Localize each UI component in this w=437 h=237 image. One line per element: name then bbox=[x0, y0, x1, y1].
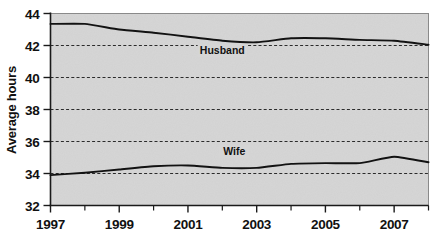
y-tick-label-32: 32 bbox=[25, 199, 39, 214]
x-tick-label-2003: 2003 bbox=[242, 217, 272, 232]
y-axis-title: Average hours bbox=[4, 66, 19, 154]
x-tick-label-2001: 2001 bbox=[174, 217, 204, 232]
chart-canvas: 32343638404244 199719992001200320052007 … bbox=[0, 0, 437, 237]
x-tick-label-2005: 2005 bbox=[311, 217, 341, 232]
y-tick-label-40: 40 bbox=[25, 71, 39, 86]
y-tick-label-38: 38 bbox=[25, 103, 40, 118]
series-label-wife: Wife bbox=[223, 145, 245, 157]
x-tick-label-2007: 2007 bbox=[380, 217, 409, 232]
y-tick-label-34: 34 bbox=[25, 167, 40, 182]
x-tick-label-1997: 1997 bbox=[36, 217, 65, 232]
y-tick-label-44: 44 bbox=[25, 7, 40, 22]
series-label-husband: Husband bbox=[200, 44, 245, 56]
y-tick-label-42: 42 bbox=[25, 39, 39, 54]
x-tick-label-1999: 1999 bbox=[105, 217, 134, 232]
y-tick-label-36: 36 bbox=[25, 135, 40, 150]
line-chart: 32343638404244 199719992001200320052007 … bbox=[0, 0, 437, 237]
